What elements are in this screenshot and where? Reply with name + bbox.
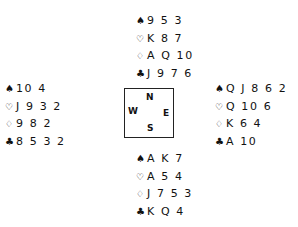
compass-south-label: S xyxy=(147,123,153,133)
north-diamonds: A Q 10 xyxy=(147,47,194,65)
club-icon: ♣ xyxy=(136,65,147,83)
south-clubs-row: ♣K Q 4 xyxy=(136,203,193,221)
south-diamonds-row: ♢J 7 5 3 xyxy=(136,185,193,203)
club-icon: ♣ xyxy=(215,133,226,151)
spade-icon: ♠ xyxy=(136,150,147,168)
north-clubs-row: ♣J 9 7 6 xyxy=(136,65,194,83)
east-clubs: A 10 xyxy=(226,133,257,151)
south-spades: A K 7 xyxy=(147,150,184,168)
west-hand: ♠10 4 ♡J 9 3 2 ♢9 8 2 ♣8 5 3 2 xyxy=(5,80,66,150)
diamond-icon: ♢ xyxy=(136,48,147,66)
west-hearts-row: ♡J 9 3 2 xyxy=(5,98,66,116)
club-icon: ♣ xyxy=(136,203,147,221)
west-clubs-row: ♣8 5 3 2 xyxy=(5,133,66,151)
compass-east-label: E xyxy=(163,108,169,118)
east-spades-row: ♠Q J 8 6 2 xyxy=(215,80,287,98)
north-hand: ♠9 5 3 ♡K 8 7 ♢A Q 10 ♣J 9 7 6 xyxy=(136,12,194,82)
west-spades-row: ♠10 4 xyxy=(5,80,66,98)
south-hearts-row: ♡A 5 4 xyxy=(136,168,193,186)
east-hearts: Q 10 6 xyxy=(226,98,272,116)
compass-west-label: W xyxy=(128,106,138,116)
south-diamonds: J 7 5 3 xyxy=(147,185,193,203)
spade-icon: ♠ xyxy=(215,80,226,98)
spade-icon: ♠ xyxy=(136,12,147,30)
east-spades: Q J 8 6 2 xyxy=(226,80,287,98)
diamond-icon: ♢ xyxy=(5,116,16,134)
north-hearts-row: ♡K 8 7 xyxy=(136,30,194,48)
compass-north-label: N xyxy=(146,92,154,102)
west-hearts: J 9 3 2 xyxy=(16,98,62,116)
heart-icon: ♡ xyxy=(5,99,16,117)
north-clubs: J 9 7 6 xyxy=(147,65,193,83)
north-spades: 9 5 3 xyxy=(147,12,183,30)
east-diamonds: K 6 4 xyxy=(226,115,262,133)
east-hand: ♠Q J 8 6 2 ♡Q 10 6 ♢K 6 4 ♣A 10 xyxy=(215,80,287,150)
compass-box: N W E S xyxy=(124,88,174,138)
west-diamonds-row: ♢9 8 2 xyxy=(5,115,66,133)
east-clubs-row: ♣A 10 xyxy=(215,133,287,151)
north-spades-row: ♠9 5 3 xyxy=(136,12,194,30)
heart-icon: ♡ xyxy=(215,99,226,117)
south-hand: ♠A K 7 ♡A 5 4 ♢J 7 5 3 ♣K Q 4 xyxy=(136,150,193,220)
west-diamonds: 9 8 2 xyxy=(16,115,52,133)
north-hearts: K 8 7 xyxy=(147,30,183,48)
south-hearts: A 5 4 xyxy=(147,168,184,186)
west-clubs: 8 5 3 2 xyxy=(16,133,66,151)
spade-icon: ♠ xyxy=(5,80,16,98)
east-hearts-row: ♡Q 10 6 xyxy=(215,98,287,116)
north-diamonds-row: ♢A Q 10 xyxy=(136,47,194,65)
diamond-icon: ♢ xyxy=(136,186,147,204)
heart-icon: ♡ xyxy=(136,169,147,187)
heart-icon: ♡ xyxy=(136,31,147,49)
south-spades-row: ♠A K 7 xyxy=(136,150,193,168)
club-icon: ♣ xyxy=(5,133,16,151)
west-spades: 10 4 xyxy=(16,80,47,98)
east-diamonds-row: ♢K 6 4 xyxy=(215,115,287,133)
diamond-icon: ♢ xyxy=(215,116,226,134)
south-clubs: K Q 4 xyxy=(147,203,185,221)
